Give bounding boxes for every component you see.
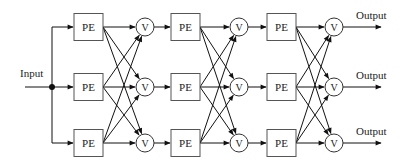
voter-node: V xyxy=(136,134,154,152)
network-nodes: PEVPEVPEVPEVPEVPEVPEVPEVPEV xyxy=(74,14,343,157)
pe-node: PE xyxy=(267,130,296,157)
pe-label: PE xyxy=(82,137,95,149)
pe-to-voter-cross xyxy=(296,95,328,143)
voter-node: V xyxy=(325,78,343,96)
pe-label: PE xyxy=(275,21,288,33)
voter-node: V xyxy=(136,78,154,96)
pe-to-voter-cross xyxy=(103,36,142,143)
output-label: Output xyxy=(356,125,387,137)
voter-node: V xyxy=(230,134,248,152)
pe-node: PE xyxy=(74,74,103,101)
pe-label: PE xyxy=(275,81,288,93)
pe-voter-network-diagram: PEVPEVPEVPEVPEVPEVPEVPEVPEV Input Output… xyxy=(0,0,404,164)
pe-to-voter-cross xyxy=(103,95,139,143)
voter-node: V xyxy=(230,78,248,96)
voter-label: V xyxy=(330,82,338,93)
pe-node: PE xyxy=(171,14,200,41)
voter-label: V xyxy=(141,82,149,93)
voter-label: V xyxy=(141,138,149,149)
voter-node: V xyxy=(230,18,248,36)
pe-node: PE xyxy=(171,74,200,101)
pe-label: PE xyxy=(82,81,95,93)
output-label: Output xyxy=(356,9,387,21)
pe-node: PE xyxy=(74,14,103,41)
voter-label: V xyxy=(330,138,338,149)
voter-label: V xyxy=(235,22,243,33)
voter-label: V xyxy=(330,22,338,33)
pe-node: PE xyxy=(267,74,296,101)
pe-label: PE xyxy=(82,21,95,33)
voter-node: V xyxy=(325,18,343,36)
voter-label: V xyxy=(235,138,243,149)
voter-label: V xyxy=(235,82,243,93)
voter-node: V xyxy=(136,18,154,36)
pe-label: PE xyxy=(179,21,192,33)
pe-label: PE xyxy=(179,81,192,93)
pe-node: PE xyxy=(267,14,296,41)
pe-node: PE xyxy=(74,130,103,157)
voter-node: V xyxy=(325,134,343,152)
pe-label: PE xyxy=(275,137,288,149)
pe-to-voter-cross xyxy=(296,27,329,79)
input-label: Input xyxy=(20,67,43,79)
output-label: Output xyxy=(356,69,387,81)
pe-to-voter-cross xyxy=(200,95,233,143)
pe-to-voter-cross xyxy=(200,27,234,79)
pe-node: PE xyxy=(171,130,200,157)
pe-to-voter-cross xyxy=(103,27,139,79)
pe-label: PE xyxy=(179,137,192,149)
voter-label: V xyxy=(141,22,149,33)
